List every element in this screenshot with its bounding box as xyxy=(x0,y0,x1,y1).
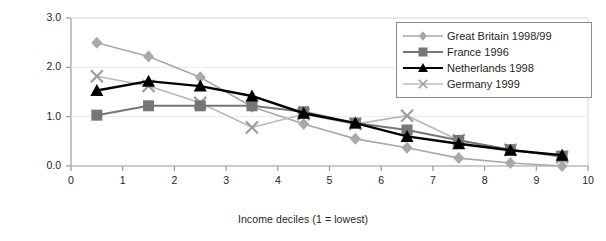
legend-label: Germany 1999 xyxy=(443,78,520,90)
legend-label: France 1996 xyxy=(443,46,509,58)
legend-marker-diamond-icon xyxy=(403,28,443,44)
legend-item[interactable]: Germany 1999 xyxy=(403,76,585,92)
legend-marker-triangle-icon xyxy=(403,60,443,76)
legend-label: Great Britain 1998/99 xyxy=(443,30,552,42)
legend-marker-square-icon xyxy=(403,44,443,60)
legend: Great Britain 1998/99 France 1996 Nether… xyxy=(396,22,592,98)
legend-item[interactable]: France 1996 xyxy=(403,44,585,60)
chart-container: 1 = even distribution Income deciles (1 … xyxy=(0,0,606,241)
legend-item[interactable]: Netherlands 1998 xyxy=(403,60,585,76)
legend-marker-cross-icon xyxy=(403,76,443,92)
legend-item[interactable]: Great Britain 1998/99 xyxy=(403,28,585,44)
legend-label: Netherlands 1998 xyxy=(443,62,534,74)
